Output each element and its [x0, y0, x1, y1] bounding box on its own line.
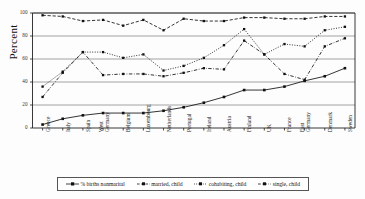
data-point — [283, 43, 285, 45]
legend-item-married-child: married, child — [137, 181, 183, 188]
legend-label-0: % births nonmarital — [80, 181, 124, 188]
data-point — [223, 96, 226, 99]
legend-marker-icon-0 — [66, 181, 79, 187]
data-point — [102, 19, 104, 21]
data-point — [122, 57, 124, 59]
data-point — [303, 18, 305, 20]
data-point — [122, 73, 124, 75]
data-point — [203, 57, 205, 59]
series-line — [43, 68, 345, 124]
data-point — [283, 85, 286, 88]
data-point — [344, 67, 347, 70]
data-point — [223, 20, 225, 22]
data-point — [243, 89, 246, 92]
data-point — [303, 79, 305, 81]
data-point — [263, 16, 265, 18]
data-point — [243, 39, 245, 41]
data-point — [183, 18, 185, 20]
data-point — [324, 15, 326, 17]
data-point — [102, 112, 105, 115]
legend-label-1: married, child — [151, 181, 182, 188]
data-point — [182, 106, 185, 109]
data-point — [142, 53, 144, 55]
data-point — [303, 45, 305, 47]
data-point — [183, 65, 185, 67]
legend-item-cohabiting-child: cohabiting, child — [194, 181, 246, 188]
chart-legend: % births nonmarital married, child cohab… — [57, 177, 309, 191]
legend-marker-icon-1 — [137, 181, 150, 187]
data-point — [102, 74, 104, 76]
series-line — [43, 38, 345, 97]
data-point — [263, 53, 265, 55]
data-point — [283, 18, 285, 20]
data-point — [62, 15, 64, 17]
data-point — [142, 19, 144, 21]
data-point — [122, 25, 124, 27]
data-point — [323, 75, 326, 78]
data-point — [162, 75, 164, 77]
legend-item-births-nonmarital: % births nonmarital — [66, 181, 125, 188]
legend-label-3: single, child — [273, 181, 300, 188]
data-point — [162, 109, 165, 112]
data-point — [41, 14, 43, 16]
axis-lines — [33, 13, 356, 128]
data-point — [82, 51, 84, 53]
data-point — [243, 28, 245, 30]
data-point — [82, 20, 84, 22]
data-point — [283, 73, 285, 75]
data-point — [203, 67, 205, 69]
data-point — [41, 85, 43, 87]
data-point — [62, 72, 64, 74]
legend-label-2: cohabiting, child — [209, 181, 247, 188]
data-point — [162, 69, 164, 71]
data-point — [223, 44, 225, 46]
gridlines — [33, 13, 356, 128]
legend-marker-icon-3 — [258, 181, 271, 187]
data-point — [203, 20, 205, 22]
data-point — [61, 118, 64, 121]
data-point — [41, 96, 43, 98]
plot-area — [0, 0, 365, 199]
data-point — [162, 29, 164, 31]
legend-item-single-child: single, child — [258, 181, 300, 188]
data-point — [344, 37, 346, 39]
data-point — [203, 101, 206, 104]
data-point — [263, 89, 266, 92]
data-point — [324, 29, 326, 31]
data-point — [344, 15, 346, 17]
data-series — [41, 14, 346, 126]
legend-marker-icon-2 — [194, 181, 207, 187]
series-line — [43, 15, 345, 30]
data-point — [183, 72, 185, 74]
data-point — [223, 68, 225, 70]
series-1 — [41, 14, 346, 31]
data-point — [324, 45, 326, 47]
chart-figure: Percent 020406080100 GreeceItalySpainWes… — [0, 0, 365, 199]
data-point — [142, 112, 145, 115]
data-point — [82, 114, 85, 117]
data-point — [41, 123, 44, 126]
data-point — [122, 112, 125, 115]
data-point — [142, 73, 144, 75]
data-point — [243, 16, 245, 18]
data-point — [102, 51, 104, 53]
series-3 — [41, 37, 346, 98]
data-point — [344, 26, 346, 28]
series-0 — [41, 67, 346, 126]
